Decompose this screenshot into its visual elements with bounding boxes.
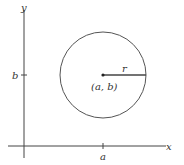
x-tick-label: a	[100, 151, 106, 162]
y-axis-label: y	[20, 2, 27, 13]
circle-diagram: y x b a r (a, b)	[0, 0, 184, 165]
y-tick-label: b	[12, 70, 18, 81]
center-label: (a, b)	[91, 81, 118, 92]
center-point	[101, 73, 104, 76]
x-axis-label: x	[166, 141, 172, 152]
radius-label: r	[122, 63, 128, 74]
